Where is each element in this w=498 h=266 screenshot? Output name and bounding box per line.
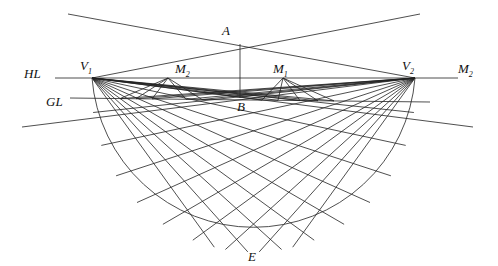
label-v1-text: V — [80, 58, 88, 73]
ray-v2-6 — [193, 78, 415, 240]
label-m2-right-sub: 2 — [469, 70, 473, 79]
diagram-canvas — [0, 0, 498, 266]
label-v1: V1 — [80, 59, 92, 76]
label-m2-right-text: M — [458, 61, 469, 76]
ray-v1-2 — [92, 78, 406, 145]
label-hl: HL — [24, 67, 41, 80]
label-gl-text: GL — [46, 94, 63, 109]
label-hl-text: HL — [24, 66, 41, 81]
label-m2-left-text: M — [175, 61, 186, 76]
label-m2-right: M2 — [458, 62, 473, 79]
label-a: A — [222, 24, 230, 37]
label-m2-left: M2 — [175, 62, 190, 79]
ray-v2-9 — [293, 78, 415, 247]
ray-v1-9 — [92, 78, 214, 247]
label-v2: V2 — [402, 59, 414, 76]
perspective-diagram: A HL GL V1 M2 M1 V2 M2 B E — [0, 0, 498, 266]
ray-v2-5 — [163, 78, 415, 224]
line-a-to-v2 — [68, 14, 415, 78]
ray-v2-2 — [101, 78, 415, 145]
label-e: E — [248, 250, 256, 263]
label-m1-text: M — [273, 61, 284, 76]
label-m2-left-sub: 2 — [186, 70, 190, 79]
label-v2-text: V — [402, 58, 410, 73]
ray-v2-7 — [225, 78, 415, 250]
label-b-text: B — [237, 99, 245, 114]
label-b: B — [237, 100, 245, 113]
ray-v1-7 — [92, 78, 282, 250]
label-v1-sub: 1 — [88, 67, 92, 76]
label-gl: GL — [46, 95, 63, 108]
label-m1-sub: 1 — [284, 70, 288, 79]
line-a-to-v1 — [92, 14, 420, 78]
label-e-text: E — [248, 249, 256, 264]
label-a-text: A — [222, 23, 230, 38]
label-m1: M1 — [273, 62, 288, 79]
label-v2-sub: 2 — [410, 67, 414, 76]
